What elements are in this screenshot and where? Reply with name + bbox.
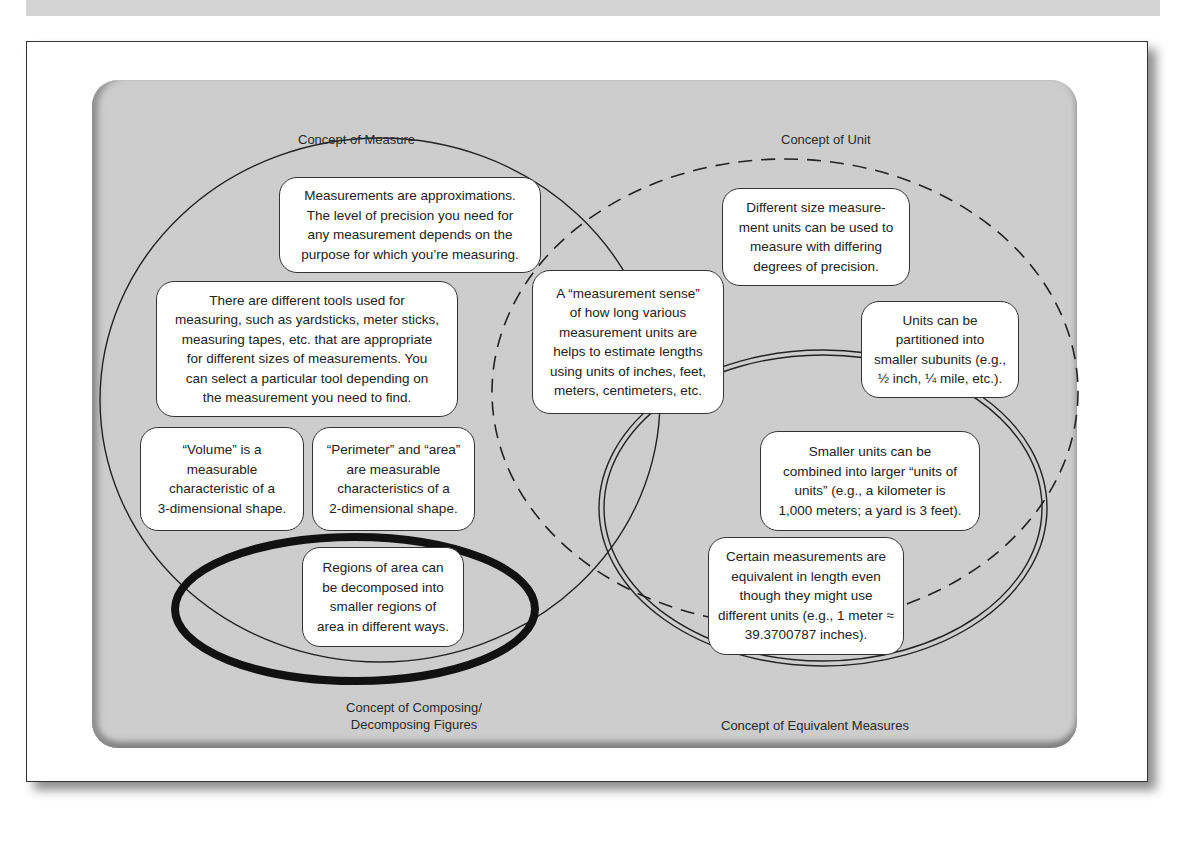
text-line: equivalent in length even bbox=[718, 567, 894, 587]
text-line: purpose for which you’re measuring. bbox=[301, 245, 519, 265]
label-concept-of-measure: Concept of Measure bbox=[298, 131, 415, 148]
box-tools: There are different tools used for measu… bbox=[156, 281, 458, 417]
text-line: Measurements are approximations. bbox=[301, 186, 519, 206]
label-concept-of-unit: Concept of Unit bbox=[781, 131, 871, 148]
text-line: using units of inches, feet, bbox=[550, 362, 706, 382]
text-line: Regions of area can bbox=[317, 558, 449, 578]
text-line: are measurable bbox=[327, 460, 461, 480]
text-line: meters, centimeters, etc. bbox=[550, 381, 706, 401]
label-composing-line1: Concept of Composing/ bbox=[344, 699, 484, 716]
text-line: measurable bbox=[158, 460, 286, 480]
text-line: for different sizes of measurements. You bbox=[175, 349, 439, 369]
box-regions: Regions of area can be decomposed into s… bbox=[302, 547, 464, 647]
text-line: 39.3700787 inches). bbox=[718, 625, 894, 645]
text-line: can select a particular tool depending o… bbox=[175, 369, 439, 389]
box-volume: “Volume” is a measurable characteristic … bbox=[140, 427, 304, 531]
text-line: Smaller units can be bbox=[778, 442, 961, 462]
text-line: smaller regions of bbox=[317, 597, 449, 617]
text-line: ½ inch, ¼ mile, etc.). bbox=[874, 369, 1006, 389]
text-line: any measurement depends on the bbox=[301, 225, 519, 245]
text-line: Certain measurements are bbox=[718, 547, 894, 567]
text-line: A “measurement sense” bbox=[550, 284, 706, 304]
text-line: measuring, such as yardsticks, meter sti… bbox=[175, 310, 439, 330]
box-equivalent-lengths: Certain measurements are equivalent in l… bbox=[708, 537, 904, 655]
text-line: measuring tapes, etc. that are appropria… bbox=[175, 330, 439, 350]
text-line: characteristics of a bbox=[327, 479, 461, 499]
text-line: the measurement you need to find. bbox=[175, 388, 439, 408]
text-line: The level of precision you need for bbox=[301, 206, 519, 226]
text-line: ment units can be used to bbox=[739, 218, 894, 238]
text-line: measurement units are bbox=[550, 323, 706, 343]
text-line: 3-dimensional shape. bbox=[158, 499, 286, 519]
text-line: helps to estimate lengths bbox=[550, 342, 706, 362]
box-measurement-sense: A “measurement sense” of how long variou… bbox=[532, 270, 724, 414]
box-perimeter: “Perimeter” and “area” are measurable ch… bbox=[312, 427, 475, 531]
text-line: characteristic of a bbox=[158, 479, 286, 499]
label-concept-of-equivalent: Concept of Equivalent Measures bbox=[721, 717, 909, 734]
text-line: area in different ways. bbox=[317, 617, 449, 637]
box-different-size: Different size measure- ment units can b… bbox=[722, 188, 910, 286]
text-line: different units (e.g., 1 meter ≈ bbox=[718, 606, 894, 626]
text-line: of how long various bbox=[550, 303, 706, 323]
text-line: though they might use bbox=[718, 586, 894, 606]
text-line: “Perimeter” and “area” bbox=[327, 440, 461, 460]
box-partitioned: Units can be partitioned into smaller su… bbox=[861, 301, 1019, 398]
text-line: units” (e.g., a kilometer is bbox=[778, 481, 961, 501]
header-band bbox=[26, 0, 1160, 16]
text-line: There are different tools used for bbox=[175, 291, 439, 311]
text-line: 1,000 meters; a yard is 3 feet). bbox=[778, 501, 961, 521]
text-line: Units can be bbox=[874, 311, 1006, 331]
text-line: “Volume” is a bbox=[158, 440, 286, 460]
box-combined: Smaller units can be combined into large… bbox=[760, 431, 980, 531]
text-line: measure with differing bbox=[739, 237, 894, 257]
text-line: 2-dimensional shape. bbox=[327, 499, 461, 519]
text-line: degrees of precision. bbox=[739, 257, 894, 277]
label-concept-of-composing: Concept of Composing/ Decomposing Figure… bbox=[344, 699, 484, 733]
text-line: smaller subunits (e.g., bbox=[874, 350, 1006, 370]
text-line: combined into larger “units of bbox=[778, 462, 961, 482]
text-line: partitioned into bbox=[874, 330, 1006, 350]
text-line: be decomposed into bbox=[317, 578, 449, 598]
box-approximations: Measurements are approximations. The lev… bbox=[279, 177, 541, 273]
label-composing-line2: Decomposing Figures bbox=[344, 716, 484, 733]
text-line: Different size measure- bbox=[739, 198, 894, 218]
